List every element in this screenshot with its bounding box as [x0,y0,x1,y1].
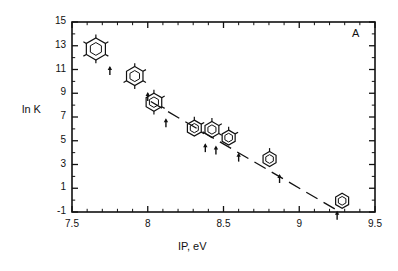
panel-label: A [352,27,359,39]
molecule-marker [222,127,238,145]
benzene-ring-icon [190,123,198,132]
figure-panel-a: IP, eV ln K A 7.588.599.5-113579111315 [0,0,398,271]
benzene-ring-icon [187,120,201,136]
y-tick-label: 9 [32,86,66,97]
molecule-marker [205,118,222,137]
benzene-ring-icon [222,130,235,145]
benzene-ring-icon [208,125,216,134]
y-tick-label: 3 [32,158,66,169]
y-tick-label: 11 [32,63,66,74]
methyl-substituent [162,96,165,98]
methyl-substituent [143,81,146,83]
methyl-substituent [219,134,222,136]
benzene-ring-icon [146,93,162,111]
data-point-arrowhead [108,66,112,70]
methyl-substituent [105,54,108,56]
x-tick-label: 8 [128,218,168,229]
benzene-ring-icon [336,193,349,208]
methyl-substituent [124,81,127,83]
x-tick-label: 9 [279,218,319,229]
methyl-substituent [235,132,238,134]
x-axis-title: IP, eV [178,240,207,252]
methyl-substituent [143,70,146,72]
x-tick-label: 7.5 [52,218,92,229]
methyl-substituent [105,42,108,44]
methyl-substituent [162,107,165,109]
molecule-marker [187,117,204,136]
y-tick-label: 1 [32,181,66,192]
molecule-marker [83,35,108,64]
benzene-ring-icon [86,38,105,60]
benzene-ring-icon [225,133,233,142]
y-tick-label: 13 [32,39,66,50]
x-tick-label: 8.5 [204,218,244,229]
molecule-marker [124,63,146,89]
x-tick-label: 9.5 [355,218,395,229]
data-point-arrowhead [203,143,207,147]
y-tick-label: 15 [32,15,66,26]
data-point-arrowhead [164,118,168,122]
trend-line [151,102,340,212]
y-tick-label: 7 [32,110,66,121]
plot-frame [72,22,375,212]
molecule-marker [263,148,276,166]
methyl-substituent [201,122,204,124]
molecule-marker [146,90,165,115]
methyl-substituent [219,124,222,126]
benzene-ring-icon [127,67,143,86]
benzene-ring-icon [205,122,219,138]
data-point-arrowhead [214,146,218,150]
benzene-ring-icon [338,196,346,205]
y-tick-label: -1 [32,205,66,216]
y-tick-label: 5 [32,134,66,145]
benzene-ring-icon [266,155,274,164]
molecule-marker [336,193,349,208]
methyl-substituent [83,42,86,44]
benzene-ring-icon [90,43,101,56]
methyl-substituent [83,54,86,56]
benzene-ring-icon [263,152,276,167]
benzene-ring-icon [130,71,140,82]
